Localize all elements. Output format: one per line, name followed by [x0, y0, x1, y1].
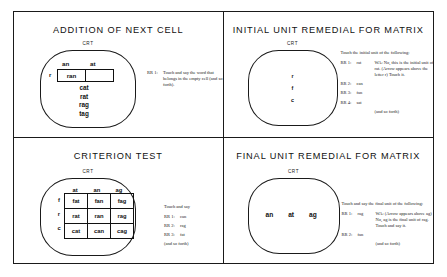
- instruction-tag: RR 4:: [341, 100, 357, 106]
- panel-title: ADDITION OF NEXT CELL: [14, 25, 223, 35]
- table-row: cat can cag: [65, 224, 134, 239]
- instruction-lead: Touch and say the final unit of the foll…: [342, 201, 434, 207]
- word-list-item: rag: [62, 101, 106, 110]
- matrix-grid: fat fan fag rat ran rag cat: [64, 193, 134, 239]
- matrix-cell[interactable]: cag: [111, 224, 134, 239]
- unit-item[interactable]: ag: [309, 211, 317, 218]
- instruction-item: rag: [180, 223, 198, 229]
- instruction-item: rag: [358, 211, 376, 229]
- instruction-tag: RR 1:: [164, 214, 180, 220]
- instruction-item: can: [357, 81, 375, 87]
- instruction-body: WA: (Arrow appears above ag) No, ag is t…: [376, 211, 434, 229]
- matrix-cell[interactable]: rat: [65, 209, 88, 224]
- matrix-body: f r c fat fan fag rat: [54, 193, 134, 239]
- matrix-row-labels: f r c: [54, 193, 64, 239]
- criterion-matrix: at an ag f r c fat fan: [54, 187, 134, 239]
- instruction-item: fat: [180, 232, 198, 238]
- crt-display: CRT at an ag f r c: [40, 178, 136, 256]
- matrix-column-header-at: at: [90, 60, 96, 67]
- instruction-block: Touch and say the final unit of the foll…: [342, 201, 434, 248]
- panel-addition-of-next-cell: ADDITION OF NEXT CELL CRT an at r ran ca…: [14, 12, 224, 138]
- unit-list: an at ag: [266, 211, 317, 218]
- instruction-line: RR 1: rag WA: (Arrow appears above ag) N…: [342, 211, 434, 229]
- crt-label: CRT: [82, 41, 93, 46]
- matrix-cell[interactable]: ran: [88, 209, 111, 224]
- unit-item[interactable]: f: [248, 82, 338, 94]
- instruction-item: can: [180, 214, 198, 220]
- instruction-tag: RR 2:: [341, 81, 357, 87]
- matrix-row-label: f: [54, 193, 64, 207]
- matrix-cells: ran: [57, 69, 114, 82]
- instruction-tail: (and so forth): [376, 241, 434, 247]
- instruction-tag: RR 3:: [164, 232, 180, 238]
- instruction-line: RR 4: sat: [341, 100, 434, 106]
- unit-item[interactable]: c: [248, 94, 338, 106]
- crt-label: CRT: [288, 169, 299, 174]
- unit-item[interactable]: an: [266, 211, 274, 218]
- table-row: rat ran rag: [65, 209, 134, 224]
- matrix-cell-empty[interactable]: [86, 70, 113, 81]
- instruction-body: WA: No, this is the initial unit of rat.…: [375, 60, 434, 78]
- instruction-block: Touch and say RR 1: can RR 2: rag RR 3: …: [164, 204, 224, 247]
- matrix-cell[interactable]: fat: [65, 194, 88, 209]
- word-list-item: cat: [62, 84, 106, 93]
- instruction-body: Touch and say the word that belongs in t…: [163, 70, 224, 88]
- matrix-cell-filled[interactable]: ran: [58, 70, 86, 81]
- instruction-line: RR 1: can: [164, 214, 224, 220]
- crt-screen: an at r ran cat rat rag tag: [40, 50, 136, 128]
- crt-label: CRT: [82, 169, 93, 174]
- instruction-line: RR 3: fat: [164, 232, 224, 238]
- matrix-cell[interactable]: fan: [88, 194, 111, 209]
- instruction-tag: RR 3:: [341, 90, 357, 96]
- instruction-lead: Touch the initial unit of the following:: [341, 50, 434, 56]
- matrix-row-label: c: [54, 221, 64, 235]
- crt-display: CRT an at ag: [248, 178, 340, 254]
- crt-screen: at an ag f r c fat fan: [40, 178, 136, 256]
- matrix-row-label-r: r: [49, 72, 51, 78]
- instruction-block: Touch the initial unit of the following:…: [341, 50, 434, 115]
- panel-title: CRITERION TEST: [14, 151, 223, 161]
- matrix-column-header-an: an: [62, 60, 69, 67]
- instruction-tail: (and so forth): [375, 109, 434, 115]
- crt-display: CRT r f c: [248, 50, 338, 126]
- panel-title: FINAL UNIT REMEDIAL FOR MATRIX: [224, 151, 434, 161]
- crt-display: CRT an at r ran cat rat rag tag: [40, 50, 136, 128]
- crt-screen: r f c: [248, 50, 338, 126]
- unit-item[interactable]: at: [288, 211, 294, 218]
- instruction-tag: RR 2:: [164, 223, 180, 229]
- instruction-line: RR 2: can: [341, 81, 434, 87]
- matrix-cell[interactable]: fag: [111, 194, 134, 209]
- instruction-line: RR 2: fan: [342, 232, 434, 238]
- instruction-tag: RR 1:: [341, 60, 357, 78]
- instruction-tag: RR 1:: [147, 70, 163, 88]
- instruction-line: RR 2: rag: [164, 223, 224, 229]
- matrix-cell[interactable]: cat: [65, 224, 88, 239]
- instruction-line: RR 3: fan: [341, 90, 434, 96]
- crt-label: CRT: [287, 41, 298, 46]
- instruction-line: RR 1: rat WA: No, this is the initial un…: [341, 60, 434, 78]
- word-list: cat rat rag tag: [62, 84, 106, 118]
- crt-screen: an at ag: [248, 178, 340, 254]
- panel-title: INITIAL UNIT REMEDIAL FOR MATRIX: [224, 25, 434, 35]
- matrix-row-label: r: [54, 207, 64, 221]
- unit-list: r f c: [248, 70, 338, 106]
- word-list-item: rat: [62, 93, 106, 102]
- instruction-line: RR 1: Touch and say the word that belong…: [147, 70, 224, 88]
- panel-initial-unit-remedial-for-matrix: INITIAL UNIT REMEDIAL FOR MATRIX CRT r f…: [224, 12, 434, 138]
- panel-criterion-test: CRITERION TEST CRT at an ag f r c: [14, 138, 224, 264]
- instruction-tag: RR 1:: [342, 211, 358, 229]
- instruction-item: sat: [357, 100, 375, 106]
- instruction-tag: RR 2:: [342, 232, 358, 238]
- panel-final-unit-remedial-for-matrix: FINAL UNIT REMEDIAL FOR MATRIX CRT an at…: [224, 138, 434, 264]
- instruction-block: RR 1: Touch and say the word that belong…: [147, 70, 224, 91]
- instruction-tail: (and so forth): [164, 241, 189, 246]
- instruction-item: fan: [357, 90, 375, 96]
- instruction-item: fan: [358, 232, 376, 238]
- matrix-cell[interactable]: rag: [111, 209, 134, 224]
- unit-item[interactable]: r: [248, 70, 338, 82]
- table-row: fat fan fag: [65, 194, 134, 209]
- figure-page: ADDITION OF NEXT CELL CRT an at r ran ca…: [13, 11, 434, 264]
- matrix-cell[interactable]: can: [88, 224, 111, 239]
- word-list-item: tag: [62, 110, 106, 119]
- instruction-lead: Touch and say: [164, 204, 224, 210]
